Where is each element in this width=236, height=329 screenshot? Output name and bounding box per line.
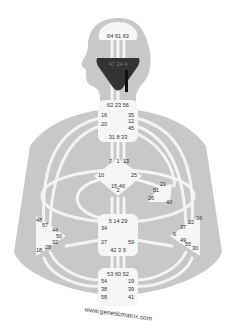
svg-text:59: 59 <box>128 239 134 245</box>
watermark: www.geneticmatrix.com <box>83 305 153 323</box>
svg-text:5 14 29: 5 14 29 <box>109 218 128 224</box>
svg-text:41: 41 <box>128 294 134 300</box>
svg-text:42 3 9: 42 3 9 <box>110 247 126 253</box>
ajna-channel-11 <box>125 70 128 92</box>
sacral-center[interactable]: 5 14 29 34 27 59 42 3 9 <box>98 214 138 256</box>
svg-text:2: 2 <box>116 187 119 193</box>
svg-text:13: 13 <box>123 158 129 164</box>
svg-text:31 8 33: 31 8 33 <box>109 134 128 140</box>
svg-text:19: 19 <box>128 278 134 284</box>
svg-text:34: 34 <box>101 225 107 231</box>
svg-text:36: 36 <box>196 215 202 221</box>
svg-text:21: 21 <box>160 181 166 187</box>
svg-text:30: 30 <box>192 245 198 251</box>
svg-text:54: 54 <box>101 278 107 284</box>
svg-text:62 23 56: 62 23 56 <box>107 102 129 108</box>
svg-text:55: 55 <box>185 241 191 247</box>
bodygraph-chart: 64 61 63 47 24 4 62 23 56 16 20 35 12 45… <box>0 0 236 329</box>
root-center[interactable]: 53 60 52 54 38 58 19 39 41 <box>98 268 138 306</box>
svg-text:6: 6 <box>173 231 176 237</box>
svg-text:12: 12 <box>128 118 134 124</box>
svg-text:10: 10 <box>98 172 104 178</box>
svg-text:22: 22 <box>188 219 194 225</box>
svg-text:51: 51 <box>153 187 159 193</box>
svg-text:26: 26 <box>148 195 154 201</box>
svg-text:37: 37 <box>180 224 186 230</box>
svg-text:58: 58 <box>101 294 107 300</box>
svg-text:7: 7 <box>109 158 112 164</box>
svg-text:45: 45 <box>128 125 134 131</box>
svg-text:16: 16 <box>101 112 107 118</box>
svg-text:28: 28 <box>45 244 51 250</box>
svg-text:32: 32 <box>52 239 58 245</box>
svg-text:57: 57 <box>42 222 48 228</box>
svg-text:39: 39 <box>128 286 134 292</box>
svg-text:53 60 52: 53 60 52 <box>107 271 129 277</box>
svg-text:27: 27 <box>101 239 107 245</box>
svg-text:40: 40 <box>166 199 172 205</box>
throat-center[interactable]: 62 23 56 16 20 35 12 45 31 8 33 <box>98 100 138 142</box>
svg-text:38: 38 <box>101 286 107 292</box>
head-gates: 64 61 63 <box>107 33 129 39</box>
svg-text:20: 20 <box>101 121 107 127</box>
svg-text:25: 25 <box>131 172 137 178</box>
ajna-gates: 47 24 4 <box>109 61 128 67</box>
svg-text:1: 1 <box>116 158 119 164</box>
svg-text:18: 18 <box>36 247 42 253</box>
